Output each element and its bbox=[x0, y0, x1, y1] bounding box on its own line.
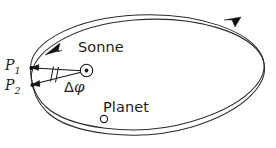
planet-marker-icon bbox=[100, 115, 107, 122]
perihelion-p2-subscript: 2 bbox=[14, 85, 20, 96]
orbit-precession-diagram: Sonne Planet P1 P2 Δφ bbox=[0, 0, 276, 148]
perihelion-point-p2-marker bbox=[30, 83, 34, 87]
perihelion-p2-letter: P bbox=[5, 77, 14, 93]
planet-label: Planet bbox=[103, 100, 149, 115]
perihelion-p1-subscript: 1 bbox=[14, 65, 20, 76]
orbit-diagram-svg bbox=[0, 0, 276, 148]
sun-label: Sonne bbox=[78, 40, 124, 55]
delta-symbol: Δ bbox=[64, 79, 74, 95]
perihelion-p1-letter: P bbox=[5, 57, 14, 73]
orbit-ellipse-second bbox=[31, 19, 264, 135]
sun-center-dot-icon bbox=[85, 69, 89, 73]
precession-angle-label: Δφ bbox=[64, 80, 84, 95]
perihelion-p1-label: P1 bbox=[5, 58, 20, 75]
phi-symbol: φ bbox=[74, 78, 85, 96]
direction-arrow-top-right-icon bbox=[224, 17, 241, 27]
perihelion-p2-label: P2 bbox=[5, 78, 20, 95]
radius-line-sun-to-p1 bbox=[34, 68, 86, 71]
perihelion-point-p1-marker bbox=[29, 66, 33, 70]
